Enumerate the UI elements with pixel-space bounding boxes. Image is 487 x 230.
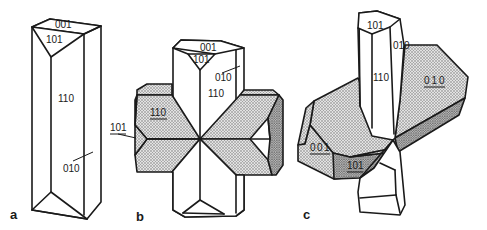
arm-left-top-b [137, 84, 172, 95]
label-110-b: 110 [208, 88, 224, 99]
label-101-arm-b: 101 [110, 122, 127, 133]
label-110-arm-b: 110 [150, 107, 166, 118]
panel-b-crystal [135, 40, 283, 217]
prism-outline-a [32, 19, 101, 219]
label-001-b: 001 [200, 42, 217, 53]
label-101-b: 101 [193, 54, 210, 65]
label-010-a: 010 [63, 163, 80, 174]
label-010-b: 010 [215, 72, 232, 83]
label-010-plate-c: 010 [424, 75, 447, 86]
label-101-c: 101 [367, 20, 384, 31]
label-101-a: 101 [46, 34, 63, 45]
label-110-c: 110 [373, 72, 389, 83]
label-001-a: 001 [55, 19, 72, 30]
panel-letter-c: c [303, 207, 310, 222]
panel-letter-b: b [136, 209, 144, 224]
label-010-c: 010 [393, 40, 410, 51]
label-001-plate-c: 001 [310, 142, 331, 153]
panel-c-crystal [298, 11, 468, 215]
label-101-plate-c: 101 [347, 160, 364, 171]
crystal-diagram: 001 101 110 010 a [0, 0, 487, 230]
panel-letter-a: a [10, 207, 18, 222]
label-110-a: 110 [58, 93, 74, 104]
panel-a-crystal [32, 19, 101, 219]
